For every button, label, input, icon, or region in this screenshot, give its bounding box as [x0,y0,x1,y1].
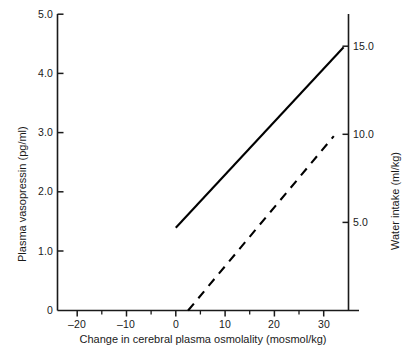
x-axis-title: Change in cerebral plasma osmolality (mo… [57,333,349,345]
series-line-plasma-vasopressin [176,47,344,228]
plot-canvas [0,0,402,356]
x-tick-label-30: 30 [304,318,344,330]
y-axis-title-right: Water intake (ml/kg) [389,152,401,250]
left-tick-label-4: 4.0 [20,67,53,79]
x-tick-label-minus10: –10 [106,318,146,330]
right-tick-label-15: 15.0 [353,40,374,52]
y-axis-title-left: Plasma vasopressin (pg/ml) [16,126,28,262]
right-axis-ticks [343,46,349,222]
left-axis-ticks [58,14,64,251]
left-tick-label-0: 0 [20,304,53,316]
right-tick-label-10: 10.0 [353,128,374,140]
x-tick-label-10: 10 [205,318,245,330]
right-tick-label-5: 5.0 [353,216,368,228]
x-tick-label-20: 20 [254,318,294,330]
x-tick-label-minus20: –20 [57,318,97,330]
chart-figure: 5.0 4.0 3.0 2.0 1.0 0 15.0 10.0 5.0 –20 … [0,0,402,356]
x-tick-label-0: 0 [156,318,196,330]
left-tick-label-5: 5.0 [20,8,53,20]
series-line-water-intake [188,136,334,310]
